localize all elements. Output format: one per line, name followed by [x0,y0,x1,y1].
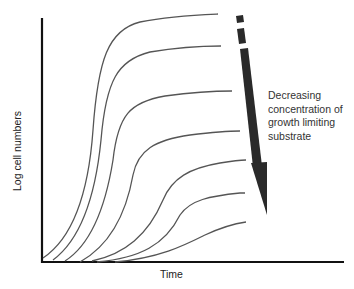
substrate-annotation: Decreasing concentration of growth limit… [268,89,343,143]
growth-curve-1 [43,14,218,258]
arrow-shaft [240,48,262,167]
arrow-dash-1 [236,15,244,23]
annotation-line: substrate [268,130,343,144]
growth-curve-7 [115,222,246,262]
growth-curve-2 [53,46,221,260]
growth-curve-3 [65,91,232,261]
decreasing-substrate-arrow [236,15,267,215]
arrow-dash-2 [237,28,246,44]
annotation-line: growth limiting [268,116,343,130]
annotation-line: concentration of [268,103,343,117]
growth-curves-diagram [0,0,354,289]
arrow-head [251,162,267,215]
x-axis-label: Time [160,268,183,280]
growth-curve-5 [92,160,246,261]
annotation-line: Decreasing [268,89,343,103]
y-axis-label: Log cell numbers [11,106,23,196]
growth-curves [43,14,246,262]
